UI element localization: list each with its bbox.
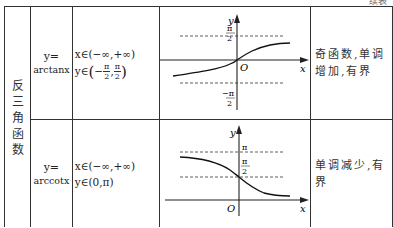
function-cell-arccot: y= arccotx: [31, 120, 73, 228]
domain-range-cell-arccot: x∈(−∞,+∞) y∈(0,π): [72, 120, 159, 228]
category-char: 三: [5, 94, 30, 110]
function-prefix: y=: [31, 161, 72, 174]
category-char: 反: [5, 78, 30, 94]
upper-asymptote-label: π: [242, 143, 247, 152]
function-name: arccotx: [31, 174, 72, 187]
lower-asymptote-den: 2: [227, 99, 232, 108]
category-cell: 反 三 角 函 数: [5, 7, 31, 228]
lower-asymptote-num: −π: [222, 89, 234, 98]
graph-cell-arccot: y x O π π 2: [159, 120, 310, 228]
table-row-arctan: 反 三 角 函 数 y= arctanx x∈(−∞,+∞) y∈(−π2,π2…: [5, 7, 393, 120]
x-axis-label: x: [300, 203, 306, 214]
range-text: y∈(0,π): [75, 174, 159, 190]
category-char: 数: [5, 142, 30, 158]
arccot-graph: y x O π π 2: [160, 120, 310, 224]
origin-label: O: [240, 62, 248, 73]
function-cell-arctan: y= arctanx: [31, 7, 73, 120]
range-frac-high: π2: [114, 62, 121, 81]
domain-text: x∈(−∞,+∞): [75, 158, 159, 174]
mid-line-den: 2: [242, 167, 247, 176]
properties-cell-arccot: 单调减少,有界: [310, 120, 392, 228]
range-prefix: y∈: [75, 64, 89, 76]
range-close: ): [121, 62, 127, 80]
y-axis-label: y: [229, 127, 236, 138]
upper-asymptote-den: 2: [227, 34, 232, 43]
mid-line-num: π: [242, 157, 247, 166]
origin-label: O: [227, 203, 235, 214]
y-axis-arrow-icon: [236, 125, 242, 134]
category-char: 角: [5, 110, 30, 126]
y-axis-arrow-icon: [234, 14, 240, 23]
domain-range-cell-arctan: x∈(−∞,+∞) y∈(−π2,π2): [72, 7, 159, 120]
category-char: 函: [5, 126, 30, 142]
frac-den: 2: [114, 72, 121, 81]
graph-cell-arctan: y x O π 2 −π 2: [159, 7, 310, 120]
function-name: arctanx: [31, 63, 72, 76]
inverse-trig-function-table: 反 三 角 函 数 y= arctanx x∈(−∞,+∞) y∈(−π2,π2…: [4, 6, 393, 227]
table-row-arccot: y= arccotx x∈(−∞,+∞) y∈(0,π) y x O π π: [5, 120, 393, 228]
domain-text: x∈(−∞,+∞): [75, 46, 159, 62]
frac-num: π: [114, 62, 121, 72]
arccot-curve: [180, 157, 290, 196]
properties-cell-arctan: 奇函数,单调增加,有界: [310, 7, 392, 120]
x-axis-label: x: [300, 63, 306, 74]
function-prefix: y=: [31, 50, 72, 63]
arctan-graph: y x O π 2 −π 2: [160, 7, 310, 115]
range-text: y∈(−π2,π2): [75, 62, 159, 81]
range-neg: −: [94, 64, 103, 76]
upper-asymptote-num: π: [227, 24, 232, 33]
